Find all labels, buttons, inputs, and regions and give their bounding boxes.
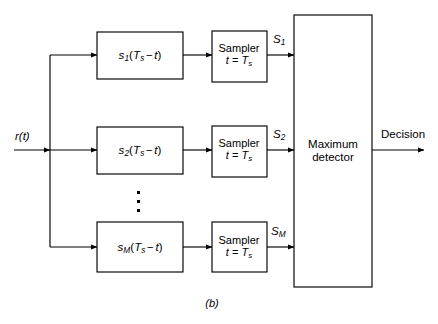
- signal-label-2: S2: [273, 128, 285, 142]
- filter-equation-1: s1(Ts−t): [119, 49, 162, 63]
- sampler-label-2: Sampler t = Ts: [219, 137, 260, 164]
- sampler-label-1: Sampler t = Ts: [219, 42, 260, 69]
- signal-label-1: S1: [273, 33, 285, 47]
- figure-caption: (b): [205, 297, 218, 309]
- block-diagram-figure: r(t) s1(Ts−t) Sampler t = Ts S1 s2(Ts−t)…: [0, 0, 438, 324]
- decision-label: Decision: [381, 128, 425, 141]
- input-label: r(t): [15, 130, 30, 143]
- filter-equation-2: s2(Ts−t): [119, 144, 162, 158]
- sampler-label-m: Sampler t = Ts: [219, 234, 260, 261]
- maximum-detector-label: Maximum detector: [308, 138, 358, 164]
- vertical-ellipsis-icon: [137, 191, 140, 218]
- filter-equation-m: sM(Ts−t): [117, 241, 162, 255]
- signal-label-m: SM: [271, 225, 286, 239]
